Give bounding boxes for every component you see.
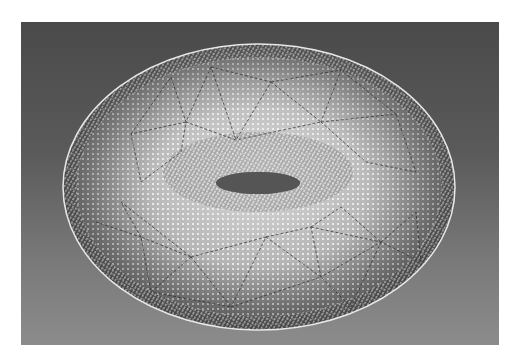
- torus-render: [21, 22, 499, 345]
- torus-hole: [216, 172, 300, 194]
- render-panel: [21, 22, 499, 345]
